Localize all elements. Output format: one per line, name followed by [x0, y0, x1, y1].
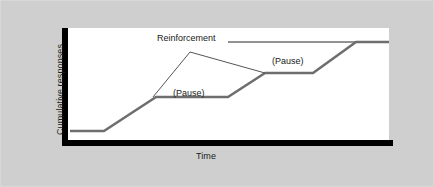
pause-label-second: (Pause) [272, 56, 304, 66]
reinforcement-label: Reinforcement [157, 33, 216, 43]
x-axis-title: Time [0, 151, 423, 161]
y-axis-title: Cumulative responses [55, 44, 65, 135]
pause-label-first: (Pause) [173, 88, 205, 98]
cumulative-record-figure: Cumulative responses Time Reinforcement … [0, 0, 434, 187]
x-axis-line [62, 140, 393, 146]
